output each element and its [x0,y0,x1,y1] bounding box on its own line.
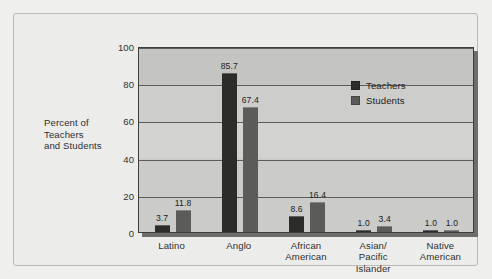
x-axis-category-line: Anglo [226,240,251,251]
bar-students-3 [377,226,392,232]
y-axis-tick-0: 0 [129,228,134,239]
legend-label: Students [366,95,405,106]
bar-teachers-1 [222,73,237,232]
bar-teachers-2 [289,216,304,232]
bar-highlight [444,230,459,231]
bar-highlight [356,230,371,231]
bar-value-label: 8.6 [290,204,302,214]
bar-highlight [289,216,304,217]
bar-teachers-4 [423,230,438,232]
legend-swatch-icon [351,96,360,105]
x-axis-category-line: Native [420,240,461,251]
x-axis-category-line: Asian/ [356,240,391,251]
bar-value-label: 1.0 [358,218,370,228]
bar-highlight [222,73,237,74]
x-axis-category-3: Asian/PacificIslander [356,240,391,274]
x-axis-category-line: Latino [158,240,185,251]
x-axis-category-line: Islander [356,263,391,274]
y-axis-tick-80: 80 [123,79,134,90]
bar-teachers-3 [356,230,371,232]
bar-value-label: 1.0 [446,218,458,228]
legend-swatch-icon [351,81,360,90]
bar-highlight [155,225,170,226]
bar-value-label: 11.8 [175,198,192,208]
legend-item-students: Students [351,95,406,106]
x-axis-category-line: Pacific [356,251,391,262]
bar-value-label: 67.4 [242,95,259,105]
x-axis-category-line: American [420,251,461,262]
bar-value-label: 1.0 [425,218,437,228]
bar-value-label: 85.7 [221,61,238,71]
bar-highlight [243,107,258,108]
chart-legend: TeachersStudents [351,80,406,106]
bar-students-2 [310,202,325,233]
bar-students-0 [176,210,191,232]
bar-students-4 [444,230,459,232]
bar-teachers-0 [155,225,170,232]
bar-highlight [310,202,325,203]
x-axis-category-2: AfricanAmerican [285,240,326,263]
x-axis-category-0: Latino [158,240,185,251]
x-axis-category-4: NativeAmerican [420,240,461,263]
bar-value-label: 16.4 [309,190,326,200]
bar-students-1 [243,107,258,232]
y-axis-tick-20: 20 [123,190,134,201]
bar-highlight [423,230,438,231]
bar-value-label: 3.4 [379,214,391,224]
y-axis-tick-labels: 020406080100 [110,47,134,233]
y-axis-tick-100: 100 [118,42,134,53]
bar-highlight [176,210,191,211]
x-axis-category-line: African [285,240,326,251]
y-axis-tick-40: 40 [123,153,134,164]
x-axis-category-1: Anglo [226,240,251,251]
legend-label: Teachers [366,80,406,91]
legend-item-teachers: Teachers [351,80,406,91]
figure-frame: Percent ofTeachersand Students 020406080… [13,13,478,266]
y-axis-tick-60: 60 [123,116,134,127]
plot-area: 3.785.78.61.01.011.867.416.43.41.0 Teach… [138,47,474,233]
bar-highlight [377,226,392,227]
x-axis-category-labels: LatinoAngloAfricanAmericanAsian/PacificI… [138,240,474,279]
x-axis-category-line: American [285,251,326,262]
bar-value-label: 3.7 [156,213,168,223]
bars-layer: 3.785.78.61.01.011.867.416.43.41.0 [139,48,473,232]
